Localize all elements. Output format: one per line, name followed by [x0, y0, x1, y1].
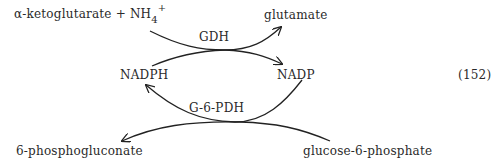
enzyme-g6pdh: G-6-PDH: [189, 101, 244, 115]
enzyme-gdh: GDH: [199, 30, 229, 44]
substrate-label: α-ketoglutarate + NH4+: [14, 7, 166, 21]
cofactor-nadph: NADPH: [120, 68, 168, 82]
product-glutamate: glutamate: [264, 8, 327, 22]
equation-number: (152): [458, 68, 491, 82]
product-6-phosphogluconate: 6-phosphogluconate: [16, 144, 143, 158]
superscript: +: [158, 2, 167, 13]
subscript: 4: [151, 14, 158, 25]
arrow-g6p-to-6pg: [122, 122, 330, 141]
reaction-arrows: [0, 0, 499, 167]
cofactor-nadp: NADP: [277, 68, 315, 82]
substrate-glucose-6-phosphate: glucose-6-phosphate: [303, 144, 432, 158]
substrate-text: α-ketoglutarate + NH: [14, 7, 151, 21]
